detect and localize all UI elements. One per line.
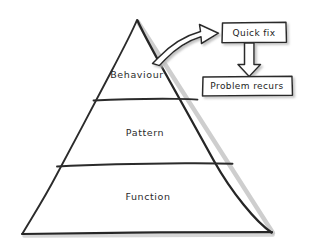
- pyramid-base-shadow: [24, 235, 273, 236]
- problem-recurs-box[interactable]: [203, 76, 293, 96]
- pyramid-left-edge: [23, 20, 138, 234]
- diagram-canvas: Behaviour Pattern Function Quick fix Pro…: [0, 0, 311, 252]
- tier-divider-pattern-function: [57, 163, 233, 166]
- pyramid-diagram-svg: [0, 0, 311, 252]
- quick-fix-box[interactable]: [222, 22, 287, 43]
- tier-divider-behaviour-pattern: [94, 99, 198, 101]
- arrow-quick-fix-to-problem-recurs: [238, 43, 261, 77]
- arrow-behaviour-to-quick-fix: [153, 25, 219, 66]
